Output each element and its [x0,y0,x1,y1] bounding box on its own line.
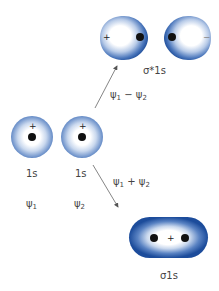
psi-symbol: ψ [26,198,33,209]
bonding-nucleus-left [150,234,158,242]
bonding-nucleus-right [181,234,189,242]
antibonding-right-sign: − [203,33,211,42]
bonding-label: σ1s [160,270,178,282]
psi-symbol: ψ [113,176,120,187]
bonding-expression: ψ1 + ψ2 [113,176,150,191]
psi-symbol: ψ [74,198,81,209]
wavefunction-label-2: ψ2 [74,198,85,213]
antibonding-expression: ψ1 − ψ2 [110,89,147,104]
bonding-sign: + [167,234,175,243]
subscript: 2 [142,94,146,102]
psi-symbol: ψ [110,89,117,100]
subscript: 1 [117,94,121,102]
nucleus-2 [78,133,86,141]
subscript: 1 [33,203,37,211]
subscript: 2 [81,203,85,211]
antibonding-right-nucleus [168,33,176,41]
operator: − [124,89,132,100]
orbital-label-2: 1s [75,168,87,180]
sign-2: + [79,122,87,131]
wavefunction-label-1: ψ1 [26,198,37,213]
operator: + [127,176,135,187]
nucleus-1 [28,133,36,141]
subscript: 2 [145,181,149,189]
antibonding-left-nucleus [136,33,144,41]
subscript: 1 [120,181,124,189]
antibonding-label: σ*1s [143,65,166,77]
orbital-label-1: 1s [26,168,38,180]
antibonding-left-sign: + [103,33,111,42]
sign-1: + [29,122,37,131]
